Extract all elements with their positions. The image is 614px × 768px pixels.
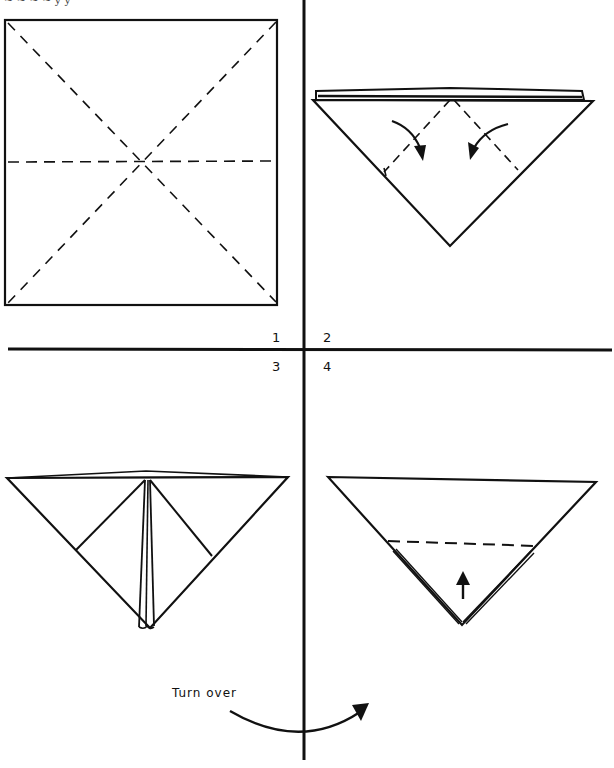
origami-diagram	[0, 0, 614, 768]
turn-over-label: Turn over	[172, 686, 237, 700]
step-1-number: 1	[272, 331, 280, 344]
step-4-triangle	[328, 477, 596, 625]
turn-over-arrow	[230, 703, 369, 732]
step-4-number: 4	[323, 360, 331, 373]
step-2-triangle	[313, 88, 593, 246]
step-1-square	[5, 20, 277, 305]
step-3-triangle	[7, 471, 288, 628]
step-3-number: 3	[272, 360, 280, 373]
step-2-number: 2	[323, 331, 331, 344]
